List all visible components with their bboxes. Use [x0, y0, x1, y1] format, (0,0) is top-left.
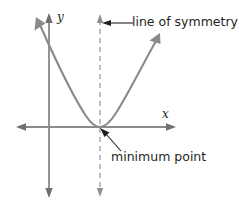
line-of-symmetry-bottom-arrowhead: [97, 188, 103, 197]
minimum-point-label: minimum point: [111, 151, 206, 164]
minimum-point-leader: [100, 128, 121, 151]
line-of-symmetry-label: line of symmetry: [132, 16, 238, 29]
parabola-left-arrowhead: [35, 17, 46, 31]
x-axis-right-arrowhead: [166, 123, 176, 131]
y-axis-top-arrowhead: [45, 13, 52, 23]
diagram-canvas: [0, 0, 239, 206]
x-axis-left-arrowhead: [16, 123, 26, 131]
line-of-symmetry-leader-arrowhead: [102, 20, 111, 26]
parabola-path: [40, 25, 156, 127]
x-axis-label: x: [162, 108, 169, 120]
y-axis-bottom-arrowhead: [45, 188, 52, 198]
line-of-symmetry: [97, 14, 103, 197]
parabola-curve: [35, 17, 161, 127]
line-of-symmetry-leader: [102, 20, 133, 26]
parabola-diagram: y x line of symmetry minimum point: [0, 0, 239, 206]
y-axis-label: y: [57, 11, 64, 23]
line-of-symmetry-top-arrowhead: [97, 14, 103, 23]
